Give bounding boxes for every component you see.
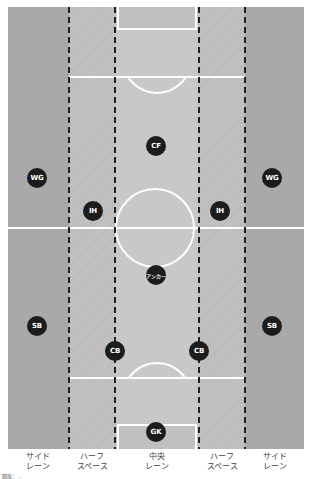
center-circle (115, 188, 195, 268)
lane-label-line2: スペース (72, 462, 112, 472)
lane-label-line1: サイド (18, 452, 58, 462)
pitch (8, 7, 304, 449)
lane-label-side-left: サイド レーン (18, 452, 58, 472)
player-gk: GK (146, 422, 166, 442)
player-cf: CF (146, 136, 166, 156)
player-wg-left: WG (27, 168, 47, 188)
penalty-arc-bottom (122, 362, 192, 377)
lane-divider-2 (114, 7, 116, 449)
lane-divider-3 (198, 7, 200, 449)
lane-label-line1: 中央 (137, 452, 177, 462)
player-wg-right: WG (262, 168, 282, 188)
lane-label-side-right: サイド レーン (255, 452, 295, 472)
player-cb-left: CB (105, 341, 125, 361)
player-cb-right: CB (189, 341, 209, 361)
lane-divider-1 (68, 7, 70, 449)
lane-divider-4 (244, 7, 246, 449)
player-anchor: アンカー (146, 265, 166, 285)
lane-label-line2: レーン (255, 462, 295, 472)
player-sb-right: SB (262, 316, 282, 336)
goal-area-top (117, 7, 197, 30)
lane-label-half-right: ハーフ スペース (202, 452, 242, 472)
figure-credit: 図版：… (2, 472, 22, 479)
player-ih-left: IH (83, 201, 103, 221)
lane-label-line2: レーン (18, 462, 58, 472)
penalty-line-bottom (69, 377, 245, 379)
player-sb-left: SB (27, 316, 47, 336)
lane-label-line1: ハーフ (202, 452, 242, 462)
penalty-arc-top (122, 78, 192, 94)
lane-label-line2: スペース (202, 462, 242, 472)
lane-label-line2: レーン (137, 462, 177, 472)
lane-label-center: 中央 レーン (137, 452, 177, 472)
lane-label-line1: サイド (255, 452, 295, 462)
lane-label-half-left: ハーフ スペース (72, 452, 112, 472)
player-ih-right: IH (210, 201, 230, 221)
lane-label-line1: ハーフ (72, 452, 112, 462)
